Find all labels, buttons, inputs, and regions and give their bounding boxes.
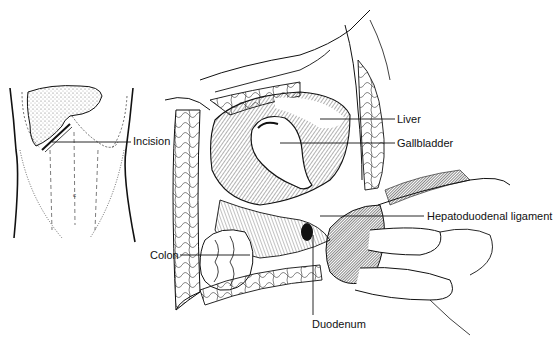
label-incision: Incision (133, 135, 170, 147)
svg-text:c: c (73, 192, 76, 198)
label-liver: Liver (397, 113, 421, 125)
label-colon: Colon (150, 249, 179, 261)
label-gallbladder: Gallbladder (397, 137, 453, 149)
label-duodenum: Duodenum (312, 318, 366, 330)
label-hepatoduodenal-ligament: Hepatoduodenal ligament (427, 210, 552, 222)
operative-field (165, 10, 510, 335)
illustration-canvas: c (0, 0, 554, 346)
